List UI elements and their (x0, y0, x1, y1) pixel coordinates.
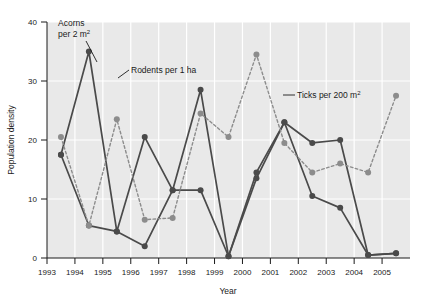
x-tick-label: 2005 (373, 268, 391, 277)
x-tick-label: 2003 (317, 268, 335, 277)
x-axis-title: Year (219, 286, 236, 296)
x-tick-label: 1998 (178, 268, 196, 277)
x-tick-label: 1993 (38, 268, 56, 277)
data-point (309, 140, 315, 146)
data-point (86, 223, 92, 229)
x-axis-ticks (47, 258, 382, 264)
data-point (198, 187, 204, 193)
data-point (86, 49, 92, 55)
chart-figure: 010203040 199319941995199619971998199920… (0, 0, 423, 301)
data-point (393, 250, 399, 256)
data-point (226, 134, 232, 140)
data-point (170, 187, 176, 193)
x-tick-label: 2000 (234, 268, 252, 277)
x-tick-label: 1997 (150, 268, 168, 277)
x-tick-label: 1995 (94, 268, 112, 277)
data-point (198, 110, 204, 116)
x-tick-label: 2004 (345, 268, 363, 277)
y-axis-title: Population density (6, 105, 16, 175)
data-point (281, 119, 287, 125)
y-axis-ticks (41, 22, 47, 258)
data-point (393, 93, 399, 99)
y-axis-tick-labels: 010203040 (28, 18, 37, 263)
data-point (58, 134, 64, 140)
data-point (198, 87, 204, 93)
data-point (337, 137, 343, 143)
y-tick-label: 40 (28, 18, 37, 27)
x-tick-label: 1994 (66, 268, 84, 277)
data-point (142, 217, 148, 223)
data-point (365, 252, 371, 258)
x-tick-label: 2002 (289, 268, 307, 277)
population-density-line-chart: 010203040 199319941995199619971998199920… (0, 0, 423, 301)
data-point (142, 134, 148, 140)
data-point (170, 215, 176, 221)
x-axis-tick-labels: 1993199419951996199719981999200020012002… (38, 268, 391, 277)
data-point (281, 140, 287, 146)
annotation-rodents-label: Rodents per 1 ha (131, 65, 196, 75)
x-tick-label: 2001 (261, 268, 279, 277)
data-point (253, 51, 259, 57)
data-point (337, 161, 343, 167)
annotation-acorns-line1: Acorns (58, 18, 84, 28)
data-point (142, 243, 148, 249)
data-point (226, 253, 232, 259)
data-point (58, 152, 64, 158)
x-tick-label: 1999 (206, 268, 224, 277)
annotation-ticks-label: Ticks per 200 m2 (297, 90, 361, 100)
data-point (365, 169, 371, 175)
data-point (309, 169, 315, 175)
y-tick-label: 30 (28, 77, 37, 86)
y-tick-label: 10 (28, 195, 37, 204)
data-point (309, 193, 315, 199)
y-tick-label: 0 (33, 254, 38, 263)
data-point (114, 228, 120, 234)
data-point (114, 116, 120, 122)
data-point (337, 205, 343, 211)
x-tick-label: 1996 (122, 268, 140, 277)
data-point (253, 175, 259, 181)
y-tick-label: 20 (28, 136, 37, 145)
annotation-acorns-line2: per 2 m2 (58, 29, 91, 39)
